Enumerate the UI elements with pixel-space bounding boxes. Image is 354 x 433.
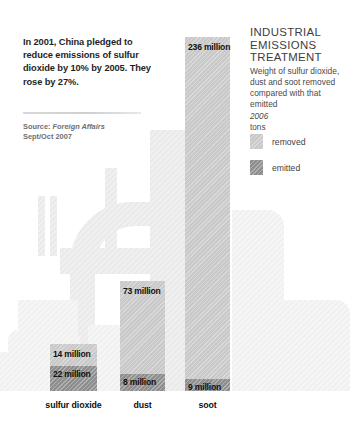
bar-group: 73 million8 million [120, 0, 165, 391]
bar-group: 236 million9 million [185, 0, 230, 391]
bar-group: 14 million22 million [50, 0, 97, 391]
infographic-canvas: In 2001, China pledged to reduce emissio… [0, 0, 354, 433]
bar-value-removed: 14 million [53, 349, 91, 359]
bar-segment-removed [185, 37, 230, 379]
bar-value-removed: 73 million [123, 286, 161, 296]
bar-value-emitted: 22 million [53, 369, 91, 379]
bar-chart: 14 million22 millionsulfur dioxide73 mil… [0, 0, 354, 433]
bar-value-emitted: 8 million [123, 377, 156, 387]
bar-value-emitted: 9 million [188, 382, 221, 392]
category-label: soot [148, 400, 268, 410]
bar-value-removed: 236 million [188, 42, 230, 52]
